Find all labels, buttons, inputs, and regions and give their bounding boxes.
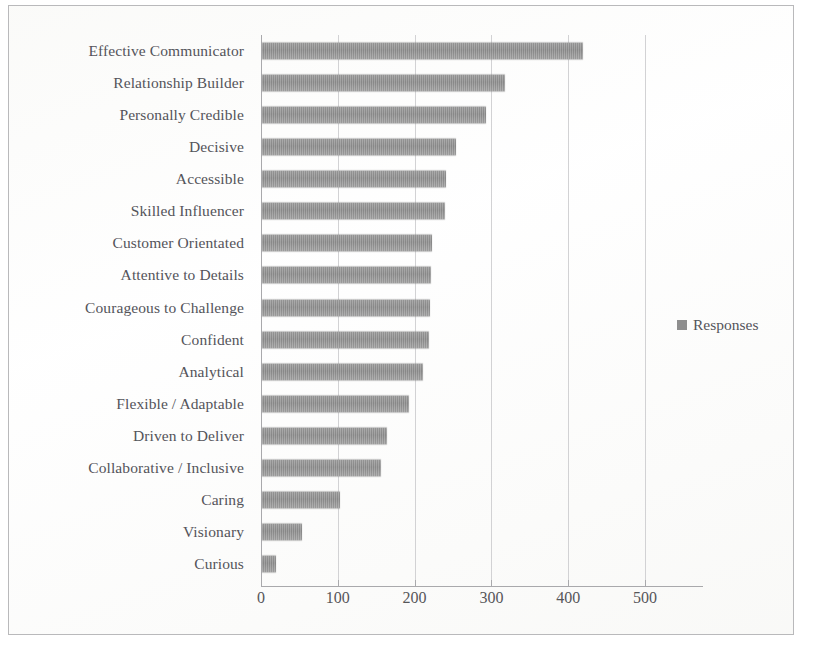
bar <box>262 523 302 540</box>
bar <box>262 203 445 220</box>
bar <box>262 427 387 444</box>
category-label: Accessible <box>176 172 244 188</box>
category-label: Driven to Deliver <box>133 428 244 444</box>
category-label: Collaborative / Inclusive <box>88 460 244 476</box>
gridline <box>491 35 492 580</box>
gridline <box>568 35 569 580</box>
axis-tick <box>645 580 646 586</box>
category-axis: Effective CommunicatorRelationship Build… <box>19 35 250 580</box>
category-label: Skilled Influencer <box>131 204 244 220</box>
bar <box>262 395 409 412</box>
category-label: Courageous to Challenge <box>85 300 244 316</box>
category-label: Relationship Builder <box>113 75 244 91</box>
category-label: Flexible / Adaptable <box>116 396 244 412</box>
bar <box>262 267 431 284</box>
axis-tick-label: 200 <box>403 590 427 606</box>
category-label: Effective Communicator <box>88 43 244 59</box>
chart-frame: Effective CommunicatorRelationship Build… <box>8 5 794 635</box>
category-label: Caring <box>201 492 244 508</box>
category-label: Customer Orientated <box>113 236 244 252</box>
axis-tick-label: 100 <box>326 590 350 606</box>
category-label: Curious <box>194 556 244 572</box>
chart-legend: Responses <box>677 317 758 333</box>
value-axis: 0100200300400500 <box>261 580 701 620</box>
bar <box>262 331 429 348</box>
bar <box>262 75 505 92</box>
axis-tick <box>261 580 262 586</box>
axis-tick <box>415 580 416 586</box>
axis-tick <box>568 580 569 586</box>
bar <box>262 107 486 124</box>
bar <box>262 459 381 476</box>
axis-tick-label: 500 <box>633 590 657 606</box>
bar <box>262 299 430 316</box>
legend-swatch-icon <box>677 320 687 330</box>
category-label: Analytical <box>178 364 244 380</box>
axis-tick-label: 0 <box>257 590 265 606</box>
bar <box>262 363 423 380</box>
axis-tick <box>491 580 492 586</box>
bar <box>262 43 583 60</box>
axis-tick <box>338 580 339 586</box>
axis-tick-label: 400 <box>556 590 580 606</box>
gridline <box>645 35 646 580</box>
category-label: Attentive to Details <box>121 268 244 284</box>
bar <box>262 491 340 508</box>
plot-area <box>261 35 645 580</box>
bar <box>262 171 446 188</box>
bar <box>262 555 276 572</box>
category-label: Visionary <box>183 524 244 540</box>
legend-label: Responses <box>693 317 758 333</box>
bar <box>262 235 432 252</box>
category-label: Decisive <box>189 139 244 155</box>
category-label: Personally Credible <box>119 107 244 123</box>
axis-tick-label: 300 <box>479 590 503 606</box>
category-label: Confident <box>181 332 244 348</box>
bar <box>262 139 456 156</box>
